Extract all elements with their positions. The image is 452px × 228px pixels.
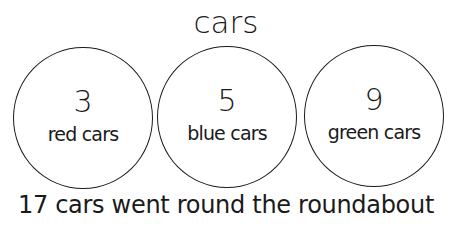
group-label: blue cars — [158, 121, 296, 145]
group-count: 9 — [305, 84, 443, 116]
summary-caption: 17 cars went round the roundabout — [0, 190, 452, 220]
group-circle-blue: 5 blue cars — [157, 46, 297, 188]
group-count: 3 — [14, 86, 152, 118]
group-label: red cars — [14, 122, 152, 146]
group-circle-red: 3 red cars — [13, 47, 153, 189]
diagram-title: cars — [0, 4, 452, 40]
group-label: green cars — [305, 120, 443, 144]
group-count: 5 — [158, 85, 296, 117]
group-circle-green: 9 green cars — [304, 45, 444, 187]
